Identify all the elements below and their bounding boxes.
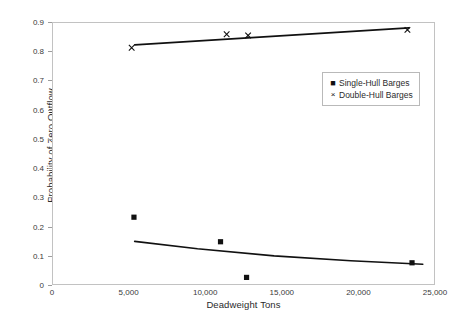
y-tick-mark (48, 139, 52, 140)
legend-item-label: Double-Hull Barges (339, 89, 413, 101)
y-tick-label: 0.9 (18, 18, 44, 27)
plot-canvas (52, 22, 435, 285)
filled-square-icon: ■ (327, 77, 339, 89)
chart-figure: Probability of Zero Outflow 00.10.20.30.… (0, 0, 460, 319)
x-tick-label: 15,000 (270, 288, 294, 297)
x-tick-label: 10,000 (193, 288, 217, 297)
y-tick-mark (48, 197, 52, 198)
y-tick-mark (48, 285, 52, 286)
data-point-single-hull (218, 239, 223, 244)
cross-icon: × (327, 89, 339, 101)
y-tick-label: 0.8 (18, 47, 44, 56)
legend-item: ■Single-Hull Barges (327, 77, 413, 89)
y-tick-mark (48, 80, 52, 81)
y-tick-label: 0.3 (18, 193, 44, 202)
y-tick-label: 0 (18, 281, 44, 290)
data-point-single-hull (409, 260, 414, 265)
y-tick-label: 0.4 (18, 164, 44, 173)
y-tick-label: 0.2 (18, 222, 44, 231)
x-tick-label: 20,000 (346, 288, 370, 297)
y-tick-label: 0.1 (18, 251, 44, 260)
chart-legend: ■Single-Hull Barges×Double-Hull Barges (322, 72, 420, 106)
legend-item-label: Single-Hull Barges (339, 77, 409, 89)
y-tick-label: 0.6 (18, 105, 44, 114)
x-axis-title: Deadweight Tons (52, 299, 435, 310)
x-tick-label: 0 (50, 288, 54, 297)
y-tick-mark (48, 110, 52, 111)
y-tick-mark (48, 22, 52, 23)
y-tick-mark (48, 168, 52, 169)
data-point-double-hull (129, 45, 135, 51)
data-point-double-hull (224, 31, 230, 37)
y-tick-mark (48, 256, 52, 257)
trendline-double-hull (135, 28, 409, 45)
data-point-single-hull (131, 215, 136, 220)
y-tick-label: 0.5 (18, 134, 44, 143)
trendline-single-hull (135, 241, 423, 264)
x-tick-label: 5,000 (119, 288, 139, 297)
y-tick-mark (48, 51, 52, 52)
y-tick-label: 0.7 (18, 76, 44, 85)
legend-item: ×Double-Hull Barges (327, 89, 413, 101)
data-point-single-hull (244, 275, 249, 280)
x-tick-label: 25,000 (423, 288, 447, 297)
y-tick-mark (48, 227, 52, 228)
